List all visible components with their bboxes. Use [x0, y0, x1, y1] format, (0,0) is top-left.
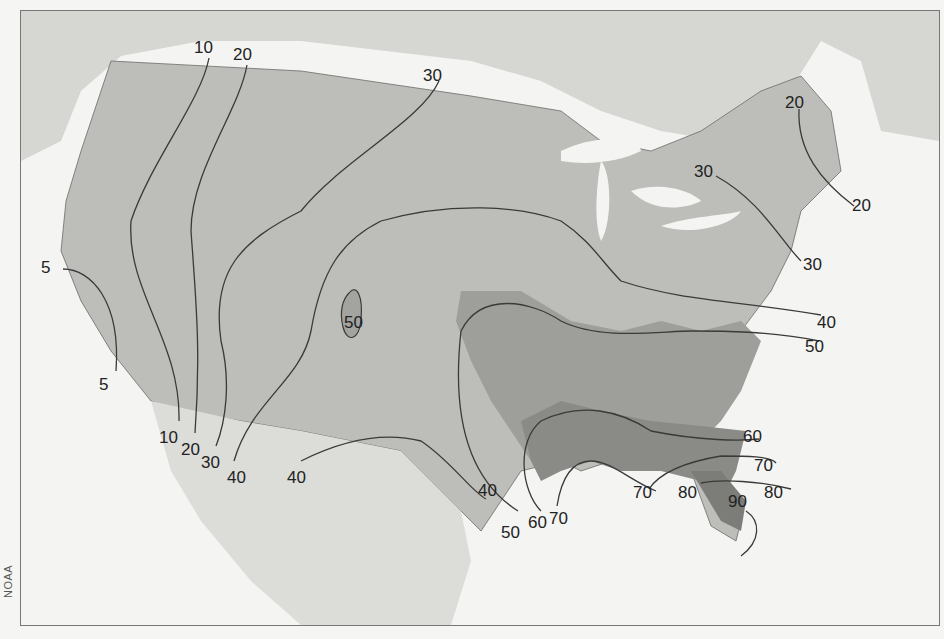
isoline-label-70: 70 — [633, 484, 652, 501]
isoline-label-40: 40 — [478, 482, 497, 499]
isoline-label-40: 40 — [287, 469, 306, 486]
isoline-label-10: 10 — [159, 429, 178, 446]
isoline-label-40: 40 — [817, 314, 836, 331]
isoline-label-60: 60 — [528, 514, 547, 531]
isoline-label-90: 90 — [728, 493, 747, 510]
isoline-label-40: 40 — [227, 469, 246, 486]
isoline-label-30: 30 — [803, 256, 822, 273]
isoline-label-30: 30 — [201, 454, 220, 471]
source-credit: NOAA — [2, 565, 14, 598]
isoline-label-50: 50 — [805, 338, 824, 355]
isoline-label-20: 20 — [785, 94, 804, 111]
isoline-label-70: 70 — [549, 510, 568, 527]
isoline-label-20: 20 — [852, 197, 871, 214]
isoline-label-70: 70 — [754, 457, 773, 474]
isoline-label-30: 30 — [423, 67, 442, 84]
map-frame: 5 5 10 10 20 20 20 20 30 30 30 30 40 40 … — [20, 10, 940, 626]
isoline-label-20: 20 — [233, 46, 252, 63]
isoline-label-30: 30 — [694, 163, 713, 180]
isoline-label-5: 5 — [41, 259, 50, 276]
isoline-label-5: 5 — [99, 376, 108, 393]
isoline-label-50: 50 — [344, 314, 363, 331]
isoline-label-20: 20 — [181, 441, 200, 458]
isoline-label-80: 80 — [764, 484, 783, 501]
isoline-label-50: 50 — [501, 524, 520, 541]
isoline-label-60: 60 — [743, 428, 762, 445]
isoline-label-80: 80 — [678, 484, 697, 501]
isoline-label-10: 10 — [194, 39, 213, 56]
